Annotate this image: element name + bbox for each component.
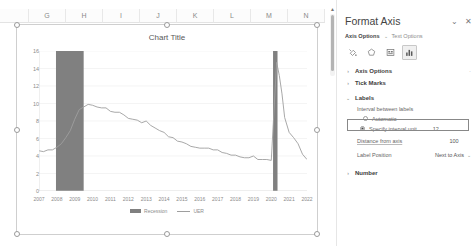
excel-worksheet-screen: GHIJKLMN Chart Title 0246810121416 20072…: [0, 0, 474, 246]
x-tick-label[interactable]: 2017: [209, 195, 227, 203]
plot-area[interactable]: [39, 51, 307, 191]
pane-tabs: Axis Options ⌄ Text Options: [345, 31, 474, 41]
column-header-spacer: [0, 9, 29, 23]
label-position-select[interactable]: Next to Axis ⌄: [435, 152, 471, 158]
vertical-scrollbar[interactable]: ▲: [330, 14, 335, 76]
recession-band: [56, 51, 84, 191]
fill-line-icon[interactable]: [345, 45, 360, 60]
resize-handle-bottom-right[interactable]: [314, 231, 320, 237]
chevron-right-icon-tick-marks: ›: [345, 80, 351, 86]
column-header-g[interactable]: G: [29, 9, 66, 23]
y-axis-tick-labels: 0246810121416: [23, 47, 39, 195]
x-tick-label[interactable]: 2018: [227, 195, 245, 203]
x-tick-label[interactable]: 2014: [155, 195, 173, 203]
x-tick-label[interactable]: 2007: [30, 195, 48, 203]
chevron-down-icon-axis-options[interactable]: ⌄: [384, 33, 388, 39]
chevron-right-icon-axis-options: ›: [345, 68, 351, 74]
x-axis-tick-labels[interactable]: 2007200820092010201120122013201420152016…: [39, 195, 307, 205]
x-tick-label[interactable]: 2010: [84, 195, 102, 203]
x-tick-label[interactable]: 2016: [191, 195, 209, 203]
field-label-label-position: Label Position: [357, 152, 435, 158]
interval-between-labels-caption: Interval between labels: [345, 106, 474, 112]
section-label-number: Number: [355, 170, 378, 176]
format-axis-pane: Format Axis ⌄ ✕ Axis Options ⌄ Text Opti…: [336, 0, 474, 246]
legend-swatch-icon-recession: [130, 209, 141, 213]
section-label-labels: Labels: [355, 95, 374, 101]
x-tick-label[interactable]: 2020: [262, 195, 280, 203]
size-properties-icon[interactable]: [383, 45, 398, 60]
x-tick-label[interactable]: 2015: [173, 195, 191, 203]
resize-handle-top-center[interactable]: [164, 22, 170, 28]
resize-handle-middle-right[interactable]: [314, 127, 320, 133]
resize-handle-top-left[interactable]: [14, 22, 20, 28]
column-header-m[interactable]: M: [251, 9, 288, 23]
resize-handle-middle-left[interactable]: [14, 127, 20, 133]
pane-title: Format Axis: [337, 15, 447, 27]
x-tick-label[interactable]: 2011: [101, 195, 119, 203]
tab-text-options[interactable]: Text Options: [392, 33, 423, 39]
distance-from-axis-input[interactable]: 100: [439, 138, 469, 144]
x-tick-label[interactable]: 2021: [280, 195, 298, 203]
column-header-i[interactable]: I: [103, 9, 140, 23]
x-tick-label[interactable]: 2013: [137, 195, 155, 203]
close-icon[interactable]: ✕: [461, 14, 474, 28]
field-row-label-position[interactable]: Label Position Next to Axis ⌄: [345, 149, 474, 161]
scrollbar-thumb[interactable]: [331, 15, 334, 71]
chart-title[interactable]: Chart Title: [17, 33, 317, 42]
resize-handle-top-right[interactable]: [314, 22, 320, 28]
scroll-up-arrow-icon[interactable]: ▲: [330, 6, 335, 13]
section-tick-marks[interactable]: › Tick Marks: [345, 77, 474, 88]
pane-icon-toolbar: [345, 44, 474, 60]
section-labels[interactable]: ⌄ Labels: [345, 92, 474, 103]
field-label-distance-from-axis: Distance from axis: [357, 138, 439, 144]
x-tick-label[interactable]: 2019: [244, 195, 262, 203]
column-header-l[interactable]: L: [214, 9, 251, 23]
x-tick-label[interactable]: 2022: [298, 195, 316, 203]
legend-swatch-icon-uer: [177, 211, 190, 212]
chart-svg: [39, 51, 307, 191]
legend-item-recession[interactable]: Recession: [130, 208, 167, 214]
chart-object[interactable]: Chart Title 0246810121416 20072008200920…: [16, 24, 318, 235]
legend-label-recession: Recession: [144, 208, 167, 214]
legend-label-uer: UER: [193, 208, 204, 214]
x-tick-label[interactable]: 2008: [48, 195, 66, 203]
chevron-down-icon-labels: ⌄: [345, 95, 351, 101]
axis-options-icon[interactable]: [402, 45, 417, 60]
label-position-value: Next to Axis: [435, 152, 464, 158]
pane-header: Format Axis ⌄ ✕: [337, 12, 474, 30]
section-axis-options[interactable]: › Axis Options ·: [345, 65, 474, 76]
chart-legend[interactable]: Recession UER: [17, 208, 317, 214]
x-tick-label[interactable]: 2009: [66, 195, 84, 203]
resize-handle-bottom-left[interactable]: [14, 231, 20, 237]
field-row-distance-from-axis[interactable]: Distance from axis 100: [345, 135, 474, 147]
column-header-row: GHIJKLMN: [0, 9, 320, 22]
x-tick-label[interactable]: 2012: [119, 195, 137, 203]
selected-option-highlight: [347, 119, 469, 131]
chevron-right-icon-number: ›: [345, 170, 351, 176]
section-label-tick-marks: Tick Marks: [355, 80, 386, 86]
column-header-j[interactable]: J: [140, 9, 177, 23]
section-trailing-axis-options: ·: [469, 68, 474, 74]
column-header-h[interactable]: H: [66, 9, 103, 23]
tab-axis-options[interactable]: Axis Options: [345, 33, 380, 39]
section-label-axis-options: Axis Options: [355, 68, 392, 74]
chevron-down-icon[interactable]: ⌄: [447, 14, 461, 28]
legend-item-uer[interactable]: UER: [177, 208, 204, 214]
effects-icon[interactable]: [364, 45, 379, 60]
section-number[interactable]: › Number: [345, 167, 474, 178]
chevron-down-icon-label-position: ⌄: [467, 152, 471, 158]
column-header-n[interactable]: N: [288, 9, 325, 23]
resize-handle-bottom-center[interactable]: [164, 231, 170, 237]
column-header-k[interactable]: K: [177, 9, 214, 23]
